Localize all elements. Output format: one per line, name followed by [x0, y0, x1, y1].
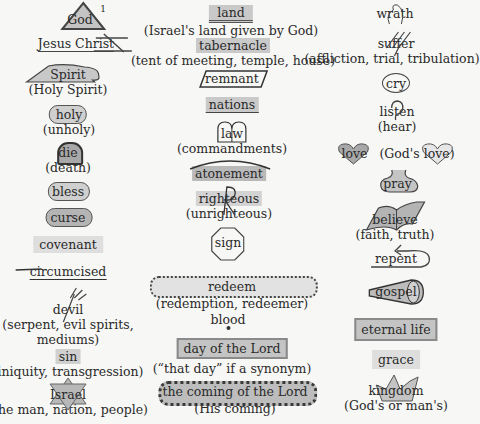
symbol-spirit: Spirit (Holy Spirit): [29, 67, 108, 97]
symbol-day-of-the-lord: day of the Lord (“that day” if a synonym…: [153, 338, 312, 376]
symbol-pray: pray: [383, 176, 412, 191]
symbol-god: God 1: [67, 2, 93, 27]
symbol-covenant: covenant: [33, 236, 103, 253]
symbol-jesus-christ: Jesus Christ: [38, 36, 114, 52]
symbol-sin: sin (iniquity, transgression): [0, 349, 143, 379]
symbol-coming-of-the-lord: the coming of the Lord (His coming): [162, 384, 307, 416]
symbol-die: die (death): [45, 145, 91, 175]
symbol-israel: Israel (the man, nation, people): [0, 387, 148, 417]
symbol-curse: curse: [51, 210, 86, 225]
symbol-kingdom: kingdom (God's or man's): [344, 383, 448, 413]
symbol-eternal-life: eternal life: [354, 318, 437, 341]
symbol-holy: holy (unholy): [43, 107, 96, 137]
symbol-blood: blood: [210, 312, 245, 327]
symbol-grace: grace: [372, 350, 420, 369]
symbol-law: law (commandments): [177, 126, 287, 156]
symbol-circumcised: circumcised: [30, 264, 107, 280]
symbol-gospel: gospel: [375, 284, 416, 299]
symbol-love: love (God's love ): [341, 146, 454, 161]
symbol-land: land (Israel's land given by God): [144, 5, 318, 38]
symbol-atonement: atonement: [192, 166, 266, 181]
symbol-nations: nations: [206, 97, 259, 113]
symbol-redeem: redeem (redemption, redeemer): [156, 279, 308, 311]
footnote-marker: 1: [100, 2, 106, 17]
symbol-righteous: righteous (unrighteous): [186, 191, 272, 221]
symbol-bless: bless: [52, 184, 84, 199]
symbol-believe: believe (faith, truth): [356, 212, 435, 242]
symbol-remnant: remnant: [205, 71, 259, 86]
symbol-cry: cry: [386, 76, 406, 91]
symbol-sign: sign: [215, 235, 241, 250]
symbol-wrath: wrath: [376, 6, 413, 21]
symbol-repent: repent: [375, 251, 417, 266]
symbol-listen: listen (hear): [378, 104, 417, 134]
symbol-devil: devil (serpent, evil spirits, mediums): [2, 292, 133, 347]
symbol-suffer: suffer (affliction, trial, tribulation): [312, 36, 479, 66]
